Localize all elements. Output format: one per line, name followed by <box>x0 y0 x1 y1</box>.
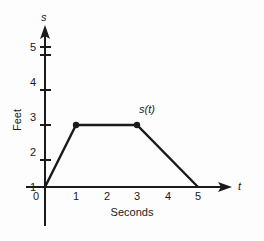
x-tick-label-1: 1 <box>70 191 82 202</box>
y-tick-label-3: 3 <box>24 112 36 123</box>
x-tick-label-5: 5 <box>192 191 204 202</box>
data-point-marker <box>134 122 140 128</box>
y-axis-name: s <box>41 12 47 23</box>
graph-figure: s t 5 4 3 2 1 0 1 2 3 4 5 Feet Seconds s… <box>0 0 264 241</box>
x-tick-label-4: 4 <box>162 191 174 202</box>
y-tick-label-2: 2 <box>24 147 36 158</box>
x-tick-label-3: 3 <box>131 191 143 202</box>
y-axis-title: Feet <box>12 109 23 131</box>
series-annotation-label: s(t) <box>139 104 155 115</box>
y-tick-label-5: 5 <box>24 42 36 53</box>
series-line-s-of-t <box>45 125 198 187</box>
plot-canvas <box>0 0 264 241</box>
x-axis-title: Seconds <box>0 207 264 218</box>
x-tick-label-0: 0 <box>30 191 42 202</box>
x-tick-label-2: 2 <box>101 191 113 202</box>
data-point-marker <box>73 122 79 128</box>
y-tick-label-4: 4 <box>24 77 36 88</box>
x-axis-name: t <box>238 181 241 192</box>
